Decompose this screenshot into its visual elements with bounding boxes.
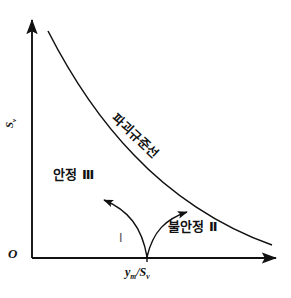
curved-arrow-left-icon [104, 200, 147, 257]
stability-diagram-figure: O Sv ym/Sv 파괴규준선 안정Ⅲ 불안정Ⅱ Ⅰ [0, 0, 291, 298]
x-axis-label: ym/Sv [125, 266, 150, 281]
stable-region-label: 안정Ⅲ [53, 168, 94, 181]
stable-region-roman: Ⅲ [77, 167, 94, 182]
branch-one-label: Ⅰ [119, 232, 123, 244]
y-axis-label-main: S [3, 122, 15, 128]
unstable-region-label-text: 불안정 [168, 219, 204, 234]
unstable-region-roman: Ⅱ [204, 219, 218, 234]
origin-label: O [8, 247, 17, 260]
y-axis-label-sub: v [10, 119, 18, 122]
x-axis-label-den-sub: v [146, 272, 149, 281]
unstable-region-label: 불안정Ⅱ [168, 220, 218, 233]
y-axis-label: Sv [4, 119, 18, 128]
stable-region-label-text: 안정 [53, 167, 77, 182]
failure-criterion-curve [48, 31, 272, 245]
